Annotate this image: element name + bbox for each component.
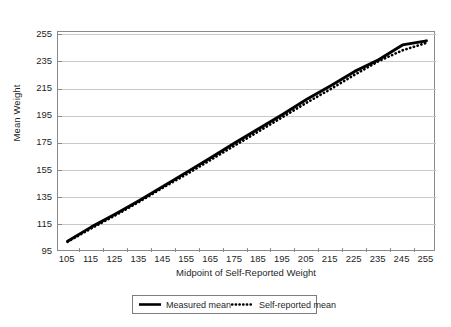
- legend-label-self-reported-mean: Self-reported mean: [259, 300, 336, 310]
- x-tick-label: 105: [59, 253, 75, 265]
- x-tick-label: 135: [130, 253, 146, 265]
- legend-swatch-solid-icon: [138, 300, 162, 309]
- x-tick-label: 235: [370, 253, 386, 265]
- legend-entry-measured-mean: Measured mean: [138, 300, 231, 310]
- x-axis-title: Midpoint of Self-Reported Weight: [57, 267, 435, 278]
- y-tick-label: 135: [8, 192, 52, 202]
- y-tick-label: 215: [8, 83, 52, 93]
- legend-label-measured-mean: Measured mean: [166, 300, 231, 310]
- legend-swatch-dotted-icon: [231, 300, 255, 309]
- x-tick-label: 205: [298, 253, 314, 265]
- data-series-layer: [68, 41, 427, 242]
- y-axis-tick-labels: 95115135155175195215235255: [6, 0, 52, 327]
- x-tick-label: 155: [178, 253, 194, 265]
- y-tick-label: 175: [8, 137, 52, 147]
- x-tick-label: 125: [106, 253, 122, 265]
- x-axis-tick-marks: [58, 248, 436, 252]
- y-tick-label: 235: [8, 56, 52, 66]
- plot-area: [57, 31, 435, 251]
- y-tick-label: 155: [8, 165, 52, 175]
- y-tick-label: 95: [8, 246, 52, 256]
- chart-canvas: [58, 32, 436, 252]
- x-tick-label: 255: [417, 253, 433, 265]
- x-tick-label: 195: [274, 253, 290, 265]
- x-tick-label: 245: [394, 253, 410, 265]
- y-tick-label: 195: [8, 110, 52, 120]
- legend-entry-self-reported-mean: Self-reported mean: [231, 300, 336, 310]
- y-axis-tick-marks: [58, 35, 62, 252]
- chart-legend: Measured mean Self-reported mean: [132, 295, 317, 314]
- x-tick-label: 145: [154, 253, 170, 265]
- x-tick-label: 185: [250, 253, 266, 265]
- x-tick-label: 215: [322, 253, 338, 265]
- y-tick-label: 115: [8, 219, 52, 229]
- chart-figure: Mean Weight 95115135155175195215235255 1…: [0, 0, 451, 327]
- x-tick-label: 165: [202, 253, 218, 265]
- x-tick-label: 175: [226, 253, 242, 265]
- series-line-2: [68, 43, 427, 242]
- grid-lines: [58, 35, 436, 252]
- y-tick-label: 255: [8, 29, 52, 39]
- x-tick-label: 115: [83, 253, 98, 265]
- x-tick-label: 225: [346, 253, 362, 265]
